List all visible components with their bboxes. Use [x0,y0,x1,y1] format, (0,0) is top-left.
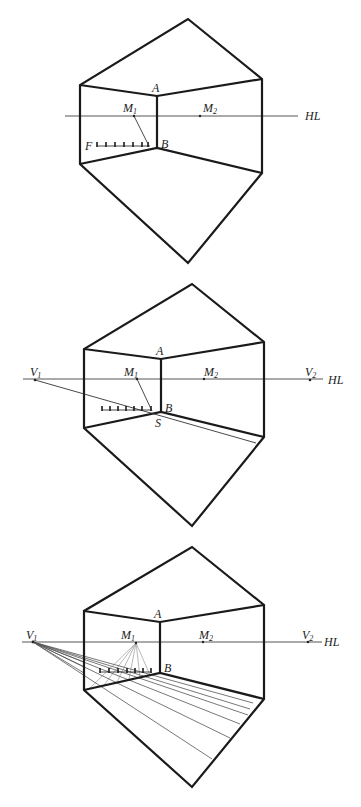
floor-edges [84,673,264,699]
label-HL: HL [327,373,344,387]
label-B: B [161,137,169,151]
measuring-line [137,379,152,411]
point-M1 [135,642,137,644]
label-M2: M2 [198,628,213,643]
label-HL: HL [323,635,340,649]
label-M2: M2 [203,365,218,380]
label-S: S [155,416,161,430]
label-A: A [153,607,162,621]
label-A: A [151,81,160,95]
vanishing-line-V1-S [35,380,256,443]
point-V1 [34,379,37,382]
floor-edges [80,148,262,173]
figure-1-interior-perspective: A B F M1 M2 HL [65,19,321,263]
label-B: B [164,661,172,675]
label-V2: V2 [302,628,313,643]
label-M1: M1 [123,365,138,380]
label-V1: V1 [30,365,41,380]
perspective-diagram: A B F M1 M2 HL A B S [0,0,361,807]
point-M2 [199,115,201,117]
room-outline [84,284,264,526]
label-V2: V2 [305,365,316,380]
label-V1: V1 [26,628,37,643]
floor-edges [84,412,264,437]
room-outline [80,19,262,263]
label-HL: HL [304,109,321,123]
ceiling-edges [84,605,264,622]
label-M1: M1 [122,101,137,116]
label-B: B [165,401,173,415]
label-F: F [84,139,93,153]
point-V2 [309,379,312,382]
ceiling-edges [84,342,264,359]
ceiling-edges [80,79,262,96]
figure-2-interior-perspective: A B S V1 M1 M2 V2 HL [23,284,344,526]
label-M2: M2 [202,101,217,116]
figure-3-interior-perspective: A B V1 M1 M2 V2 HL [22,547,340,787]
label-M1: M1 [120,628,135,643]
label-A: A [155,344,164,358]
measuring-line [134,116,149,146]
